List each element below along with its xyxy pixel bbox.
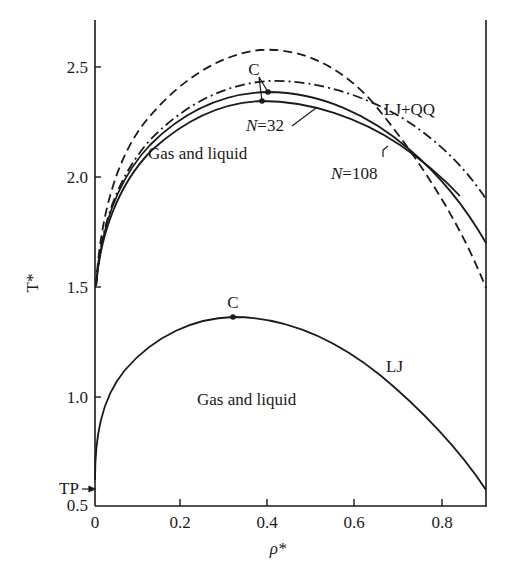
n32-label: N=32 xyxy=(245,116,284,135)
x-tick-label: 0.4 xyxy=(256,513,278,532)
y-tick-label: 0.5 xyxy=(67,496,88,515)
x-tick-label: 0.6 xyxy=(343,513,364,532)
x-axis-title: ρ* xyxy=(269,539,287,558)
leader-n108 xyxy=(383,146,388,157)
n108-label: N=108 xyxy=(330,164,377,183)
x-ticks xyxy=(180,499,442,506)
y-axis-title: T* xyxy=(23,274,42,293)
triple-point-arrow xyxy=(82,487,95,492)
ljqq-label: LJ+QQ xyxy=(384,100,435,119)
n32-label-value: =32 xyxy=(257,116,284,135)
y-tick-label: 1.0 xyxy=(67,388,88,407)
x-tick-label: 0 xyxy=(91,513,100,532)
critical-label-lower: C xyxy=(227,293,238,312)
x-tick-label: 0.2 xyxy=(169,513,190,532)
region-label-upper: Gas and liquid xyxy=(148,144,248,163)
y-tick-label: 2.0 xyxy=(67,168,88,187)
n108-label-value: =108 xyxy=(342,164,377,183)
critical-point-lj xyxy=(230,314,236,320)
critical-label-upper: C xyxy=(248,60,259,79)
curve-n108 xyxy=(96,92,486,286)
triple-point-label: TP xyxy=(59,479,79,498)
y-tick-label: 1.5 xyxy=(67,278,88,297)
y-ticks xyxy=(95,67,101,397)
region-label-lower: Gas and liquid xyxy=(197,390,297,409)
y-tick-label: 2.5 xyxy=(67,58,88,77)
leader-n32 xyxy=(292,108,316,126)
curve-dashed xyxy=(96,50,486,288)
lj-label: LJ xyxy=(386,357,403,376)
phase-diagram-chart: 2.5 2.0 1.5 1.0 0.5 0 0.2 0.4 0.6 0.8 ρ*… xyxy=(0,0,507,567)
x-tick-label: 0.8 xyxy=(431,513,452,532)
